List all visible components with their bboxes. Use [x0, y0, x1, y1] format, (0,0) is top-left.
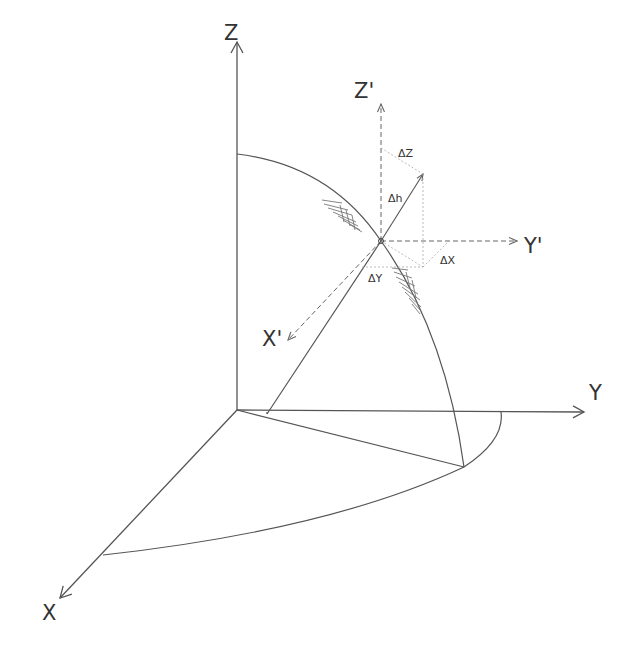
y-axis-label: Y [588, 381, 602, 405]
sphere-arcs [103, 154, 501, 555]
x-axis [60, 410, 237, 598]
x-axis-label: X [42, 601, 56, 625]
hatching-upper [322, 200, 362, 232]
delta-x-label: ΔX [440, 254, 456, 267]
y-axis [237, 410, 584, 412]
z-prime-label: Z' [354, 79, 374, 103]
hatching-lower [392, 268, 422, 314]
diagram-canvas: Z Y X Z' Y' X' ΔZ Δh ΔX ΔY [0, 0, 624, 650]
x-prime-axis [288, 241, 381, 340]
delta-z-label: ΔZ [398, 147, 414, 160]
meridian-arc [237, 154, 464, 467]
x-prime-label: X' [262, 327, 282, 351]
local-axes [288, 104, 517, 340]
main-axes [60, 42, 584, 598]
z-axis-label: Z [224, 21, 238, 45]
delta-h-vector [381, 174, 423, 241]
base-ellipse-arc [103, 412, 501, 555]
y-prime-label: Y' [523, 234, 543, 258]
delta-y-label: ΔY [368, 272, 383, 285]
ground-projection [237, 410, 464, 467]
delta-h-label: Δh [388, 192, 403, 205]
